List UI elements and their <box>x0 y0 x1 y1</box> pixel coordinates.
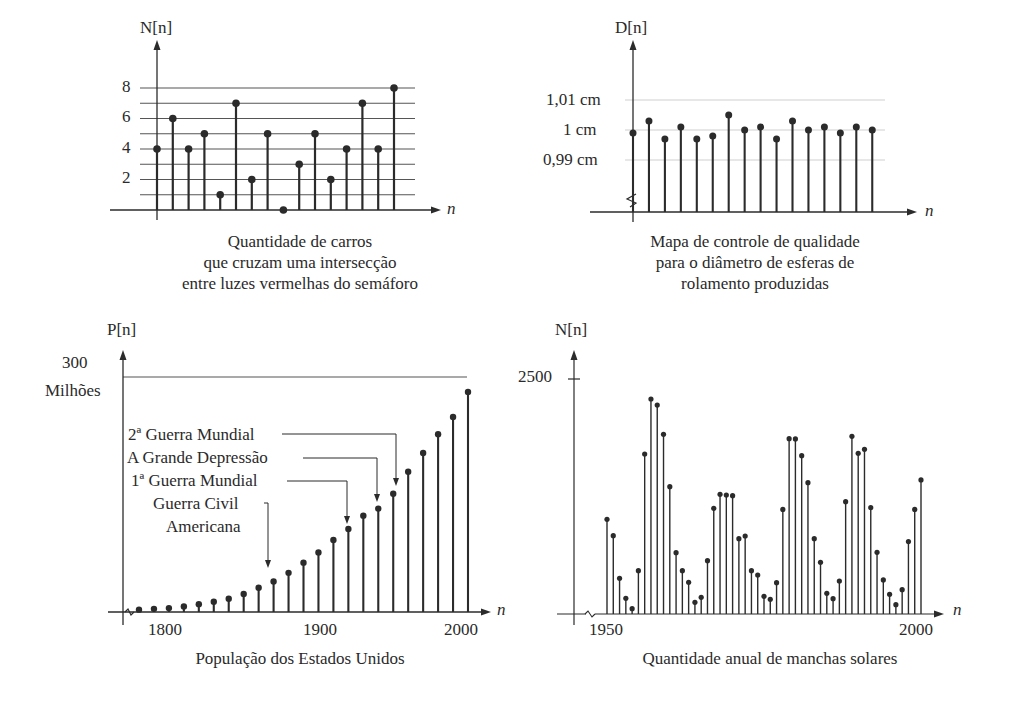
bearings-caption: Mapa de controle de qualidade para o diâ… <box>590 231 920 294</box>
cars-x-axis-arrow <box>431 207 441 214</box>
bearings-y-axis-arrow <box>630 40 637 50</box>
population-dot <box>181 603 187 609</box>
bearings-xlabel: n <box>925 201 934 221</box>
population-dot <box>360 512 366 518</box>
population-dot <box>345 526 351 532</box>
sunspots-dot <box>680 568 685 573</box>
sunspots-dot <box>793 436 798 441</box>
sunspots-dot <box>736 536 741 541</box>
population-dot <box>330 537 336 543</box>
bearings-ytick-101: 1,01 cm <box>546 90 601 110</box>
sunspots-dot <box>692 600 697 605</box>
population-xtick-1800: 1800 <box>148 620 182 640</box>
sunspots-dot <box>749 568 754 573</box>
bearings-dot <box>693 136 700 143</box>
population-caption: População dos Estados Unidos <box>100 648 500 669</box>
population-dot <box>285 570 291 576</box>
sunspots-caption-text: Quantidade anual de manchas solares <box>570 648 970 669</box>
cars-dot <box>327 176 335 184</box>
figure-stage: N[n] 8 6 4 2 n Quantidade de carros que … <box>0 0 1021 712</box>
sunspots-dot <box>799 453 804 458</box>
sunspots-dot <box>755 572 760 577</box>
bearings-ytick-100: 1 cm <box>563 120 597 140</box>
cars-ytick-8: 8 <box>122 77 131 97</box>
sunspots-dot <box>830 596 835 601</box>
population-dot <box>465 389 471 395</box>
sunspots-dot <box>780 507 785 512</box>
bearings-dot <box>773 136 780 143</box>
sunspots-dot <box>849 434 854 439</box>
bearings-dot <box>725 112 732 119</box>
sunspots-dot <box>787 436 792 441</box>
sunspots-dot <box>617 576 622 581</box>
sunspots-dot <box>843 499 848 504</box>
cars-caption: Quantidade de carros que cruzam uma inte… <box>130 231 470 294</box>
population-dot <box>375 505 381 511</box>
bearings-caption-line-3: rolamento produzidas <box>590 273 920 294</box>
annotation-ww1: 1ª Guerra Mundial <box>131 471 258 491</box>
sunspots-dot <box>818 560 823 565</box>
cars-ylabel-text: N[n] <box>140 18 172 37</box>
sunspots-dot <box>906 539 911 544</box>
population-dot <box>151 606 157 612</box>
annotation-depression-arrow <box>374 494 380 502</box>
sunspots-dot <box>630 606 635 611</box>
annotation-civil-war-arrow <box>265 560 271 568</box>
bearings-dot <box>789 118 796 125</box>
annotation-civil-war-line-1: Guerra Civil <box>153 494 238 514</box>
sunspots-dot <box>730 493 735 498</box>
sunspots-dot <box>887 592 892 597</box>
cars-dot <box>311 130 319 138</box>
sunspots-xtick-2000: 2000 <box>899 620 933 640</box>
bearings-dot <box>821 124 828 131</box>
sunspots-dot <box>812 536 817 541</box>
annotation-civil-war-line-2: Americana <box>166 517 241 537</box>
cars-dot <box>169 115 177 123</box>
sunspots-dot <box>868 505 873 510</box>
bearings-dot <box>805 127 812 134</box>
cars-dot <box>359 99 367 107</box>
population-dot <box>240 591 246 597</box>
cars-ylabel: N[n] <box>140 18 172 38</box>
sunspots-dot <box>661 432 666 437</box>
cars-dot <box>248 176 256 184</box>
sunspots-dot <box>862 447 867 452</box>
bearings-dot <box>645 118 652 125</box>
bearings-ytick-099: 0,99 cm <box>543 150 598 170</box>
sunspots-ylabel: N[n] <box>555 320 587 340</box>
population-y-axis-arrow <box>120 350 127 360</box>
cars-y-axis-arrow <box>154 40 161 50</box>
sunspots-dot <box>686 580 691 585</box>
sunspots-dot <box>774 580 779 585</box>
sunspots-dot <box>874 550 879 555</box>
cars-ytick-2: 2 <box>122 168 131 188</box>
bearings-x-axis-arrow <box>907 209 917 216</box>
bearings-dot <box>677 124 684 131</box>
stem-plots-canvas <box>0 0 1021 712</box>
sunspots-dot <box>805 480 810 485</box>
annotation-ww2-arrow <box>393 478 399 486</box>
cars-dot <box>232 99 240 107</box>
annotation-great-depression: A Grande Depressão <box>127 448 268 468</box>
population-ylabel: P[n] <box>107 320 136 340</box>
sunspots-dot <box>837 578 842 583</box>
population-caption-text: População dos Estados Unidos <box>100 648 500 669</box>
sunspots-dot <box>893 602 898 607</box>
cars-dot <box>280 206 288 214</box>
cars-ytick-6: 6 <box>122 107 131 127</box>
population-ytick-unit: Milhões <box>45 381 101 401</box>
bearings-ylabel: D[n] <box>615 18 647 38</box>
axis-break-icon <box>627 194 636 207</box>
sunspots-dot <box>636 568 641 573</box>
cars-dot <box>390 84 398 92</box>
cars-ytick-4: 4 <box>122 138 131 158</box>
sunspots-dot <box>642 451 647 456</box>
cars-xlabel: n <box>447 199 456 219</box>
cars-dot <box>374 145 382 153</box>
population-dot <box>211 599 217 605</box>
cars-dot <box>295 160 303 168</box>
population-dot <box>196 601 202 607</box>
sunspots-dot <box>856 451 861 456</box>
bearings-caption-line-2: para o diâmetro de esferas de <box>590 252 920 273</box>
bearings-dot <box>837 130 844 137</box>
